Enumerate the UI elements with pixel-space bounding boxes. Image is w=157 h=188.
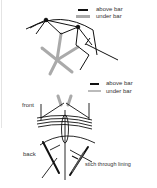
stitch-pointer: [72, 156, 78, 159]
under-bar-rib: [57, 60, 72, 72]
joint-dot: [76, 25, 80, 29]
back-above-bar: [43, 142, 88, 175]
front-back-drawing: [37, 103, 95, 180]
above-bar-ribs: [26, 18, 118, 70]
back-line: [50, 145, 60, 150]
front-under-bar: [58, 96, 71, 105]
above-bar-line: [76, 45, 89, 55]
above-bar-line: [86, 44, 118, 60]
front-label: front: [22, 102, 34, 109]
outer-arc: [30, 19, 97, 55]
stitch-line: [72, 152, 84, 172]
under-bar-stub: [58, 96, 61, 105]
above-bar-line: [76, 27, 78, 45]
umbrella-top-drawing: [0, 0, 157, 188]
under-bar-rib: [42, 48, 57, 60]
under-bar-rib: [57, 34, 61, 60]
above-bar-line: [78, 27, 88, 40]
back-line: [42, 158, 57, 178]
above-bar-line: [61, 27, 78, 34]
back-label: back: [23, 151, 36, 158]
under-bar-ribs: [42, 34, 78, 74]
under-bar-stub: [68, 96, 71, 105]
stitch-label: stich through lining: [85, 161, 131, 168]
under-bar-rib: [50, 60, 57, 74]
above-bar-line: [80, 55, 89, 70]
joint-dot: [44, 18, 48, 22]
